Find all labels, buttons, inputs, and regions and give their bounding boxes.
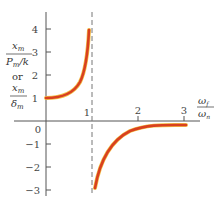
- y-tick-label: −3: [25, 185, 40, 196]
- y-tick-label: 4: [32, 24, 38, 35]
- x-tick-label: 1: [84, 107, 90, 118]
- y-tick-label: −1: [25, 139, 40, 150]
- x-tick-label: 2: [135, 105, 141, 116]
- resonance-chart: 4 3 2 1 −1 −2 −3 0 1 2 3 xm Pm/k or xm δ…: [0, 0, 219, 206]
- y-tick-label: 3: [32, 47, 38, 58]
- y-tick-label: 1: [32, 93, 38, 104]
- svg-text:ωn: ωn: [198, 108, 210, 120]
- y-ticks: [46, 29, 51, 190]
- x-tick-label: 0: [35, 124, 41, 135]
- y-axis-label: xm Pm/k or xm δm: [5, 40, 32, 111]
- svg-text:xm: xm: [12, 40, 25, 53]
- curve-above-resonance: [95, 125, 186, 188]
- svg-text:or: or: [12, 71, 23, 82]
- x-axis-label: ωf ωn: [197, 95, 214, 120]
- curve-below-resonance: [46, 30, 89, 98]
- svg-text:ωf: ωf: [198, 95, 210, 108]
- x-tick-label: 3: [181, 105, 187, 116]
- svg-text:δm: δm: [11, 98, 24, 111]
- x-ticks: [138, 116, 184, 121]
- svg-text:xm: xm: [12, 82, 25, 95]
- y-tick-label: −2: [25, 162, 40, 173]
- y-tick-label: 2: [32, 70, 38, 81]
- svg-text:Pm/k: Pm/k: [5, 56, 29, 69]
